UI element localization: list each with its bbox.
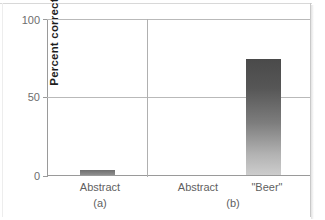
page-edge-right-shadow (311, 5, 314, 219)
x-label-panel-b-beer: "Beer" (240, 182, 294, 193)
panel-name-b: (b) (190, 198, 276, 209)
y-tick-label-50: 50 (0, 92, 40, 103)
y-axis-line (47, 19, 48, 177)
bar-panel-b-beer (246, 59, 281, 175)
panel-name-a: (a) (57, 198, 143, 209)
plot-area (47, 19, 310, 176)
panel-divider (147, 19, 148, 177)
page-edge-top (0, 3, 312, 4)
bar-panel-a-abstract (80, 170, 115, 175)
x-label-panel-b-abstract: Abstract (155, 182, 241, 193)
page-edge-left (2, 3, 3, 217)
y-tick-label-100: 100 (0, 15, 40, 26)
x-label-panel-a-abstract: Abstract (57, 182, 143, 193)
y-tick-label-0: 0 (0, 171, 40, 182)
gridline-100 (47, 19, 310, 20)
x-axis-baseline (47, 175, 310, 176)
chart-figure: Percent correct 100 50 0 Abstract Abstra… (0, 0, 325, 220)
